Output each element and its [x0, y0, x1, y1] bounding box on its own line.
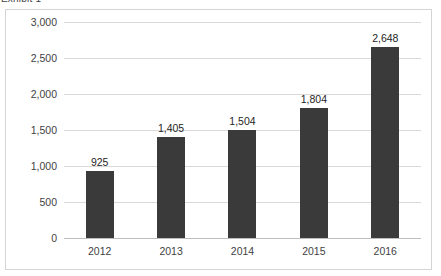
y-axis-tick-label: 0: [51, 232, 57, 244]
x-axis-tick-label: 2014: [231, 245, 254, 257]
x-axis-tick-label: 2015: [302, 245, 325, 257]
gridline: [64, 238, 421, 239]
x-axis-tick-label: 2016: [374, 245, 397, 257]
bar-value-label: 1,405: [158, 122, 184, 134]
y-axis-tick-label: 1,000: [31, 160, 57, 172]
y-axis-tick-label: 1,500: [31, 124, 57, 136]
bar[interactable]: [157, 137, 185, 238]
x-axis-tick-label: 2012: [88, 245, 111, 257]
y-axis-tick-label: 2,000: [31, 88, 57, 100]
bar-group: 9252012: [64, 22, 135, 238]
bar-value-label: 1,504: [229, 115, 255, 127]
x-axis-tick-label: 2013: [159, 245, 182, 257]
bar[interactable]: [371, 47, 399, 238]
y-axis-tick-label: 3,000: [31, 16, 57, 28]
bar-group: 2,6482016: [350, 22, 421, 238]
bar-group: 1,8042015: [278, 22, 349, 238]
y-axis-tick-label: 2,500: [31, 52, 57, 64]
bar-group: 1,4052013: [135, 22, 206, 238]
bar[interactable]: [86, 171, 114, 238]
chart-frame: 05001,0001,5002,0002,5003,00092520121,40…: [5, 9, 432, 270]
bar-value-label: 925: [91, 156, 109, 168]
y-axis-tick-label: 500: [39, 196, 57, 208]
bar-value-label: 1,804: [301, 93, 327, 105]
bar[interactable]: [228, 130, 256, 238]
bar-group: 1,5042014: [207, 22, 278, 238]
caption-text: Exhibit 1: [1, 0, 41, 4]
bar-value-label: 2,648: [372, 32, 398, 44]
caption-strip: Exhibit 1: [0, 0, 441, 7]
bar[interactable]: [300, 108, 328, 238]
plot-area: 05001,0001,5002,0002,5003,00092520121,40…: [64, 22, 421, 238]
